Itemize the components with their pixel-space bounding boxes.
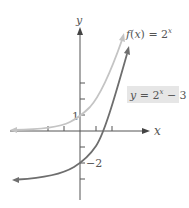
curve-g-top-arrow-icon <box>124 46 130 55</box>
curve-f-label: f(x) = 2x <box>125 27 172 41</box>
curve-g-left-arrow-icon <box>12 177 19 183</box>
y-axis-arrow-icon <box>77 27 83 35</box>
exponential-graph: x y 1 −2 f(x) = 2x y = 2x − 3 <box>0 0 189 208</box>
curve-f-top-arrow-icon <box>119 33 125 42</box>
curve-g-label: y = 2x − 3 <box>129 88 187 102</box>
y-axis-label: y <box>75 14 83 27</box>
y-tick-label-minus-2: −2 <box>86 157 102 170</box>
x-axis-arrow-icon <box>142 128 150 134</box>
x-axis-label: x <box>154 124 161 138</box>
curve-f-2-pow-x <box>14 40 122 130</box>
curve-f-left-arrow-icon <box>10 127 17 133</box>
